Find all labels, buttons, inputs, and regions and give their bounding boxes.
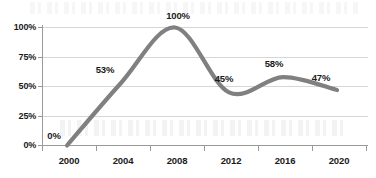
ytick-label-100: 100% xyxy=(2,22,36,32)
xtick-label-2008: 2008 xyxy=(152,155,202,166)
ytick-label-25: 25% xyxy=(2,111,36,121)
point-label-2008: 100% xyxy=(156,10,200,21)
point-label-2016: 58% xyxy=(256,58,292,69)
point-label-2012: 45% xyxy=(206,73,242,84)
line-chart: 100% 75% 50% 25% 0% 2000 2004 2008 2012 … xyxy=(0,0,376,178)
point-label-2020: 47% xyxy=(303,72,339,83)
ytick-label-50: 50% xyxy=(2,81,36,91)
plot-area xyxy=(0,0,376,178)
xtick-label-2020: 2020 xyxy=(314,155,364,166)
point-label-2004: 53% xyxy=(87,64,123,75)
point-label-2000: 0% xyxy=(38,130,70,141)
ytick-label-0: 0% xyxy=(2,140,36,150)
xtick-label-2004: 2004 xyxy=(98,155,148,166)
xtick-label-2012: 2012 xyxy=(206,155,256,166)
xtick-label-2000: 2000 xyxy=(44,155,94,166)
xtick-label-2016: 2016 xyxy=(260,155,310,166)
ytick-label-75: 75% xyxy=(2,52,36,62)
